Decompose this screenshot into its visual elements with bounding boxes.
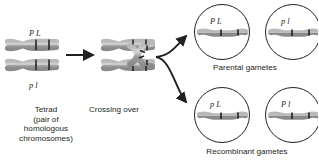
tetrad-chromosome-group [8, 40, 56, 70]
tetrad-alleles-top: P L [29, 30, 41, 39]
recombinant-gamete-cells [195, 88, 319, 143]
recombinant-gamete-2-alleles: P l [281, 101, 290, 110]
figure-canvas: P L p l P L p l p L P l Tetrad (pair of … [0, 0, 318, 167]
parental-gamete-cells [195, 5, 319, 60]
crossing-over-chromosome-group [104, 39, 152, 71]
crossing-over-caption: Crossing over [66, 105, 162, 115]
tetrad-alleles-bottom: p l [29, 82, 38, 91]
parental-gamete-1-alleles: P L [210, 18, 222, 27]
arrow-curve-up-icon [156, 36, 186, 57]
parental-gamete-2-alleles: p l [281, 18, 290, 27]
parental-gametes-caption: Parental gametes [177, 63, 313, 73]
recombinant-gamete-1-alleles: p L [210, 101, 221, 110]
recombinant-gametes-caption: Recombinant gametes [177, 147, 317, 157]
